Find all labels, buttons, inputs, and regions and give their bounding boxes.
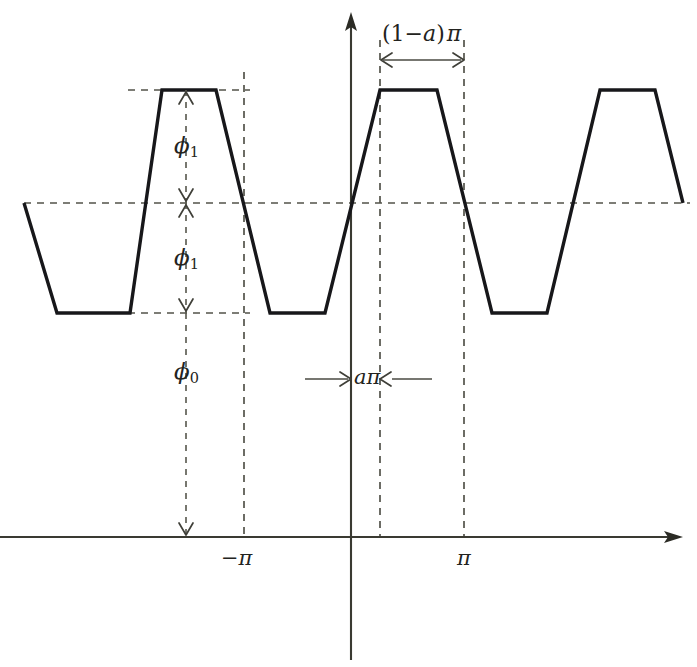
one-minus-a-pi-pi: π	[447, 21, 461, 46]
waveform-figure: ϕ1 ϕ1 ϕ0 (1−a)π aπ −π π	[0, 0, 697, 667]
trapezoidal-waveform	[24, 90, 683, 313]
one-minus-a-pi-variable: a	[423, 21, 436, 46]
phi1-upper-symbol: ϕ	[174, 132, 190, 158]
a-pi-arrowhead-right	[380, 372, 391, 386]
phi1-upper-label: ϕ1	[174, 134, 199, 160]
phi1-lower-symbol: ϕ	[174, 244, 190, 270]
a-pi-label: aπ	[354, 367, 380, 388]
phi0-symbol: ϕ	[174, 358, 190, 384]
one-minus-a-pi-minus: −	[405, 21, 423, 46]
phi1-upper-subscript: 1	[190, 144, 199, 160]
phi0-label: ϕ0	[174, 360, 199, 386]
a-pi-variable: a	[354, 365, 367, 389]
phi0-subscript: 0	[190, 370, 199, 386]
tick-label-pi: π	[457, 548, 471, 569]
a-pi-pi: π	[367, 365, 381, 389]
one-minus-a-pi-label: (1−a)π	[382, 23, 461, 45]
one-minus-a-pi-close: )	[436, 21, 445, 46]
one-minus-a-pi-open: (1	[382, 21, 405, 46]
phi1-lower-subscript: 1	[190, 256, 199, 272]
figure-canvas	[0, 0, 697, 667]
phi1-lower-label: ϕ1	[174, 246, 199, 272]
tick-label-minus-pi: −π	[221, 548, 252, 569]
